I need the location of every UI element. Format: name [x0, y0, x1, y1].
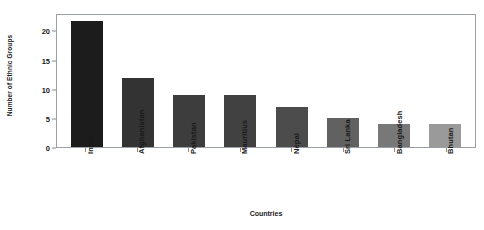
y-axis-tick-label: 0 — [46, 144, 50, 153]
x-axis-label-slot: India — [60, 152, 112, 208]
x-axis-label-slot: Nepal — [266, 152, 318, 208]
y-axis-title-text: Number of Ethnic Groups — [7, 34, 14, 115]
x-axis-label-slot: Sri Lanka — [318, 152, 370, 208]
y-axis-title: Number of Ethnic Groups — [0, 0, 20, 150]
x-axis-label-slot: Mauritius — [215, 152, 267, 208]
x-axis-tick-label: India — [86, 136, 95, 154]
x-axis-tick-label: Pakistan — [189, 122, 198, 154]
x-axis-label-slot: Afghanistan — [112, 152, 164, 208]
plot-area — [56, 14, 476, 148]
x-axis-label-slot: Pakistan — [163, 152, 215, 208]
x-axis-label-slot: Bhutan — [421, 152, 473, 208]
y-axis-tick-label: 20 — [42, 27, 50, 36]
x-axis-tick-labels: IndiaAfghanistanPakistanMauritiusNepalSr… — [56, 152, 476, 208]
bar-slot — [61, 15, 112, 147]
y-axis-tick-label: 15 — [42, 56, 50, 65]
x-axis-tick-label: Sri Lanka — [343, 119, 352, 154]
bar[interactable] — [71, 21, 103, 147]
y-axis-tick-label: 5 — [46, 114, 50, 123]
x-axis-tick-label: Afghanistan — [137, 110, 146, 154]
bar-chart-figure: Number of Ethnic Groups 05101520 IndiaAf… — [0, 0, 484, 230]
x-axis-label-slot: Bangladesh — [369, 152, 421, 208]
x-axis-tick-label: Nepal — [292, 133, 301, 154]
x-axis-tick-label: Bangladesh — [395, 110, 404, 154]
x-axis-tick-label: Mauritius — [240, 120, 249, 154]
y-axis-tick-labels: 05101520 — [20, 14, 56, 148]
bar-series — [57, 15, 475, 147]
y-axis-tick-label: 10 — [42, 85, 50, 94]
x-axis-title: Countries — [56, 210, 476, 217]
bar-slot — [266, 15, 317, 147]
x-axis-tick-label: Bhutan — [446, 128, 455, 154]
